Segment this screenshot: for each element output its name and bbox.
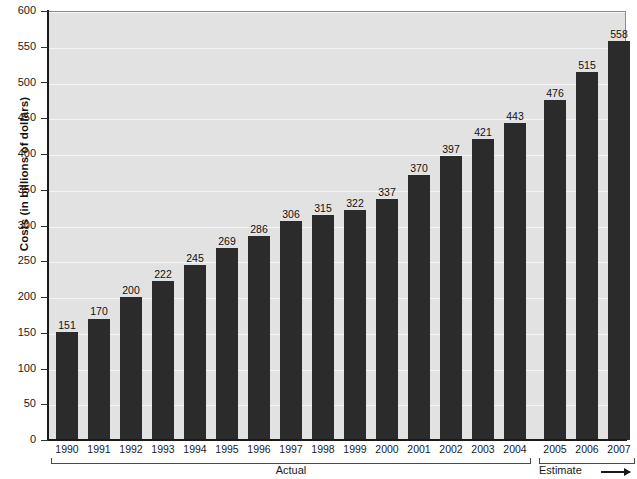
- x-axis-tick-label: 2003: [465, 443, 501, 455]
- bar-value-label: 306: [273, 208, 309, 220]
- bar-value-label: 370: [401, 162, 437, 174]
- group-caption-actual: Actual: [51, 464, 531, 476]
- y-axis-tick-label: 0: [30, 433, 36, 445]
- y-axis-tick-label: 200: [18, 290, 36, 302]
- bar-value-label: 269: [209, 235, 245, 247]
- y-axis-tick: [41, 333, 48, 334]
- x-axis-tick-label: 2007: [601, 443, 637, 455]
- bar: [184, 265, 206, 440]
- bar: [152, 281, 174, 440]
- y-axis-tick: [41, 404, 48, 405]
- x-axis-tick-label: 2002: [433, 443, 469, 455]
- y-axis-tick: [41, 440, 48, 441]
- bar-value-label: 322: [337, 197, 373, 209]
- y-axis-title: Costs (in billions of dollars): [18, 64, 30, 284]
- bar-value-label: 558: [601, 28, 637, 40]
- bar: [280, 221, 302, 440]
- bar-value-label: 476: [537, 87, 573, 99]
- bar-value-label: 151: [49, 319, 85, 331]
- y-axis-tick: [41, 47, 48, 48]
- x-axis-tick-label: 1998: [305, 443, 341, 455]
- group-caption-estimate: Estimate: [539, 464, 601, 476]
- bar-value-label: 245: [177, 252, 213, 264]
- bar: [440, 156, 462, 440]
- bar-value-label: 421: [465, 126, 501, 138]
- x-axis-line: [47, 439, 627, 441]
- bar: [120, 297, 142, 440]
- plot-area: 1511702002222452692863063153223373703974…: [48, 11, 626, 440]
- y-axis-tick-label: 50: [24, 397, 36, 409]
- y-axis-tick-label: 250: [18, 254, 36, 266]
- y-axis-tick-label: 600: [18, 4, 36, 16]
- x-axis-tick-label: 1993: [145, 443, 181, 455]
- x-axis-tick-label: 1994: [177, 443, 213, 455]
- x-axis-tick-label: 1999: [337, 443, 373, 455]
- y-axis-tick: [41, 226, 48, 227]
- bar-value-label: 515: [569, 59, 605, 71]
- x-axis-tick-label: 2005: [537, 443, 573, 455]
- y-axis-tick-label: 500: [18, 76, 36, 88]
- x-axis-tick-label: 1991: [81, 443, 117, 455]
- bar: [408, 175, 430, 440]
- gridline: [48, 48, 625, 49]
- bar-value-label: 200: [113, 284, 149, 296]
- y-axis-tick: [41, 82, 48, 83]
- y-axis-tick-label: 450: [18, 111, 36, 123]
- x-axis-tick-label: 1992: [113, 443, 149, 455]
- estimate-arrow-icon: [601, 471, 630, 473]
- gridline: [48, 227, 625, 228]
- y-axis-tick: [41, 154, 48, 155]
- x-axis-tick-label: 2004: [497, 443, 533, 455]
- bar: [56, 332, 78, 440]
- y-axis-tick: [41, 118, 48, 119]
- y-axis-tick-label: 100: [18, 362, 36, 374]
- y-axis-tick-label: 300: [18, 219, 36, 231]
- y-axis-tick-label: 400: [18, 147, 36, 159]
- bar: [88, 319, 110, 441]
- y-axis-tick-label: 150: [18, 326, 36, 338]
- bar: [472, 139, 494, 440]
- gridline: [48, 191, 625, 192]
- bar-value-label: 397: [433, 143, 469, 155]
- bar: [608, 41, 630, 440]
- y-axis-tick: [41, 297, 48, 298]
- y-axis-tick-label: 350: [18, 183, 36, 195]
- bar-value-label: 170: [81, 305, 117, 317]
- bar-value-label: 337: [369, 186, 405, 198]
- bar: [248, 236, 270, 441]
- bar-value-label: 222: [145, 268, 181, 280]
- bar-value-label: 286: [241, 223, 277, 235]
- x-axis-tick-label: 2006: [569, 443, 605, 455]
- gridline: [48, 262, 625, 263]
- bar-value-label: 315: [305, 202, 341, 214]
- bar: [544, 100, 566, 440]
- plot-inner: 1511702002222452692863063153223373703974…: [48, 12, 625, 440]
- y-axis-tick: [41, 261, 48, 262]
- x-axis-tick-label: 1997: [273, 443, 309, 455]
- x-axis-tick-label: 1990: [49, 443, 85, 455]
- bar: [576, 72, 598, 440]
- y-axis-tick-label: 550: [18, 40, 36, 52]
- bar: [504, 123, 526, 440]
- x-axis-tick-label: 2000: [369, 443, 405, 455]
- bar: [376, 199, 398, 440]
- y-axis-tick: [41, 369, 48, 370]
- bar: [312, 215, 334, 440]
- gridline: [48, 119, 625, 120]
- gridline: [48, 84, 625, 85]
- y-axis-tick: [41, 190, 48, 191]
- x-axis-tick-label: 1996: [241, 443, 277, 455]
- bar: [216, 248, 238, 440]
- x-axis-tick-label: 1995: [209, 443, 245, 455]
- y-axis-tick: [41, 11, 48, 12]
- bar: [344, 210, 366, 440]
- gridline: [48, 12, 625, 13]
- bar-value-label: 443: [497, 110, 533, 122]
- gridline: [48, 155, 625, 156]
- x-axis-tick-label: 2001: [401, 443, 437, 455]
